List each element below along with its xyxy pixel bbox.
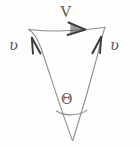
vector-triangle-drawing bbox=[0, 0, 140, 148]
resultant-vector-label: V bbox=[60, 4, 72, 20]
angle-theta-label: Θ bbox=[61, 92, 72, 106]
left-velocity-vector-line bbox=[29, 29, 73, 140]
vector-diagram-canvas: V ʋ ʋ Θ bbox=[0, 0, 140, 148]
left-velocity-label: ʋ bbox=[9, 38, 18, 53]
resultant-vector-line bbox=[29, 27, 106, 31]
right-velocity-label: ʋ bbox=[110, 38, 119, 53]
